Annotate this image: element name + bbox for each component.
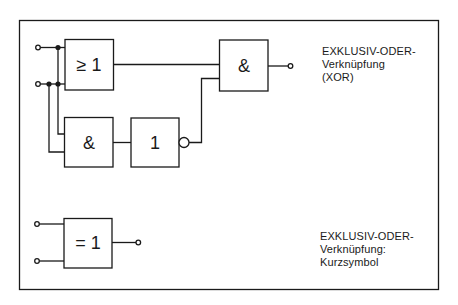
junction-dot: [55, 81, 60, 86]
input-terminal-b: [36, 82, 41, 87]
and-gate-lower-symbol: &: [83, 133, 95, 153]
xor-caption-line-2: Verknüpfung: [322, 58, 416, 71]
short-input-terminal-a: [35, 222, 40, 227]
or-gate-symbol: ≥ 1: [77, 55, 102, 75]
short-input-terminal-b: [35, 259, 40, 264]
inversion-bubble: [179, 138, 189, 148]
xor-short-caption-line-2: Verknüpfung:: [320, 243, 414, 256]
and-gate-output-symbol: &: [238, 56, 250, 76]
xor-caption: EXKLUSIV-ODER- Verknüpfung (XOR): [322, 45, 416, 84]
xor-caption-line-3: (XOR): [322, 71, 416, 84]
short-output-terminal: [136, 240, 141, 245]
xor-short-caption-line-3: Kurzsymbol: [320, 256, 414, 269]
xor-short-caption-line-1: EXKLUSIV-ODER-: [320, 230, 414, 243]
output-terminal: [288, 64, 293, 69]
junction-dot: [55, 45, 60, 50]
junction-dot: [46, 81, 51, 86]
xor-short-caption: EXKLUSIV-ODER- Verknüpfung: Kurzsymbol: [320, 230, 414, 269]
not-gate-symbol: 1: [150, 133, 160, 153]
input-terminal-a: [36, 45, 41, 50]
xor-caption-line-1: EXKLUSIV-ODER-: [322, 45, 416, 58]
xor-gate-symbol: = 1: [75, 233, 101, 253]
